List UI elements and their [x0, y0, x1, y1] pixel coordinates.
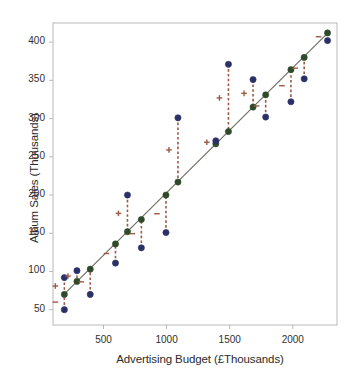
- scatter-plot-figure: Album Sales (Thousands) Advertising Budg…: [0, 0, 355, 380]
- residual-lines: [64, 33, 327, 310]
- axis-tick-marks: [49, 42, 293, 329]
- residual-sign-marks: [53, 37, 322, 302]
- plot-canvas: [0, 0, 355, 380]
- observed-points: [61, 37, 330, 312]
